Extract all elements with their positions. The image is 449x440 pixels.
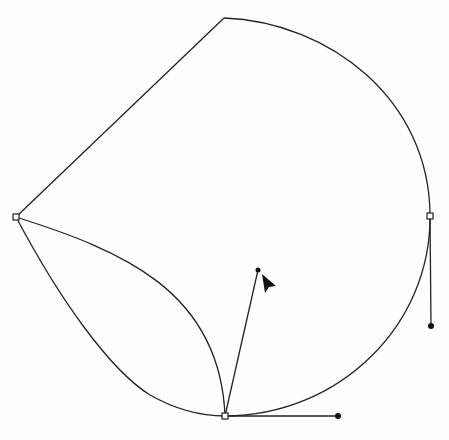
arrow-pointer-icon xyxy=(262,274,276,293)
handle-point-bottom-right[interactable] xyxy=(335,413,341,419)
anchor-point-left[interactable] xyxy=(13,214,19,220)
anchor-point-bottom[interactable] xyxy=(222,413,228,419)
path-segment-left-bottom-inner[interactable] xyxy=(16,217,225,416)
anchor-point-right[interactable] xyxy=(427,213,433,219)
handle-line-bottom-up[interactable] xyxy=(225,270,258,416)
handle-point-bottom-up[interactable] xyxy=(256,268,261,273)
handle-point-right-down[interactable] xyxy=(428,323,434,329)
path-segment-top-right[interactable] xyxy=(224,18,430,216)
handle-line-right-down[interactable] xyxy=(430,216,431,326)
bezier-diagram xyxy=(0,0,449,440)
path-segment-right-bottom[interactable] xyxy=(225,216,430,416)
path-canvas[interactable] xyxy=(0,0,449,440)
path-segment-left-top[interactable] xyxy=(16,18,224,217)
path-segment-left-bottom-outer[interactable] xyxy=(16,217,225,416)
